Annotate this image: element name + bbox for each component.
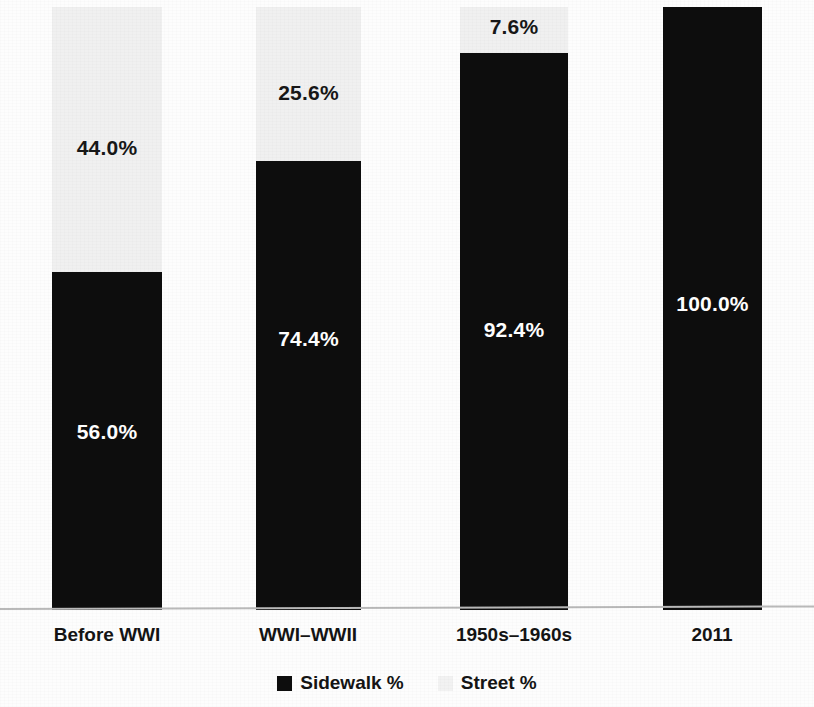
bar-value-label-sidewalk: 74.4% [256,327,361,351]
chart-legend: Sidewalk % Street % [0,672,814,694]
legend-item-street[interactable]: Street % [438,672,537,694]
bar-group-2011[interactable]: 100.0% [663,7,762,610]
bar-group-1950s-1960s[interactable]: 7.6% 92.4% [460,7,568,610]
bar-value-label-sidewalk: 100.0% [663,292,762,316]
bar-segment-street[interactable]: 25.6% [256,7,361,161]
x-tick-label-2011: 2011 [622,624,802,646]
x-tick-label-wwi-wwii: WWI–WWII [218,624,398,646]
bar-segment-street[interactable]: 7.6% [460,7,568,53]
legend-swatch-icon [438,676,453,691]
x-axis-tick-labels: Before WWI WWI–WWII 1950s–1960s 2011 [0,624,814,658]
plot-area: 44.0% 56.0% 25.6% 74.4% 7.6% 92.4% [0,0,814,610]
bar-segment-sidewalk[interactable]: 56.0% [52,272,162,610]
legend-label-street: Street % [461,672,537,694]
x-tick-label-before-wwi: Before WWI [17,624,197,646]
bar-group-wwi-wwii[interactable]: 25.6% 74.4% [256,7,361,610]
chart-container: 44.0% 56.0% 25.6% 74.4% 7.6% 92.4% [0,0,814,707]
x-tick-label-1950s-1960s: 1950s–1960s [424,624,604,646]
bar-segment-sidewalk[interactable]: 100.0% [663,7,762,610]
bar-value-label-street: 44.0% [52,136,162,160]
legend-label-sidewalk: Sidewalk % [300,672,404,694]
bar-group-before-wwi[interactable]: 44.0% 56.0% [52,7,162,610]
bar-value-label-sidewalk: 92.4% [460,318,568,342]
bar-segment-street[interactable]: 44.0% [52,7,162,272]
bar-value-label-street: 7.6% [460,15,568,39]
bar-segment-sidewalk[interactable]: 92.4% [460,53,568,610]
bar-segment-sidewalk[interactable]: 74.4% [256,161,361,610]
bar-value-label-street: 25.6% [256,81,361,105]
legend-swatch-icon [277,676,292,691]
legend-item-sidewalk[interactable]: Sidewalk % [277,672,404,694]
bar-value-label-sidewalk: 56.0% [52,420,162,444]
